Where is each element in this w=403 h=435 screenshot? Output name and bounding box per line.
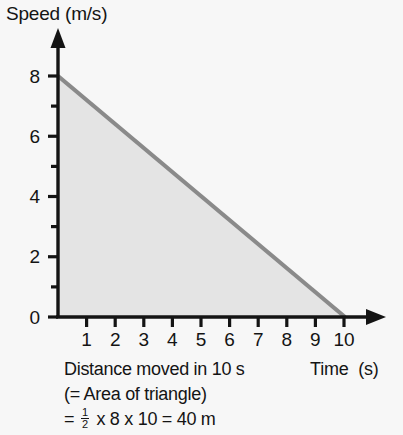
calc-rest: x 8 x 10 = 40 m	[92, 409, 216, 430]
x-axis-title: Time (s)	[310, 360, 379, 378]
annotation-line-distance: Distance moved in 10 s	[64, 357, 245, 382]
x-tick-label-9: 9	[303, 330, 327, 349]
chart-page: Speed (m/s) 8 6 4 2 0 1 2 3 4 5 6 7 8 9 …	[0, 0, 403, 435]
x-tick-label-6: 6	[218, 330, 242, 349]
y-axis-arrow-icon	[51, 28, 66, 48]
y-tick-label-6: 6	[20, 127, 40, 146]
one-half-fraction: 1 2	[81, 407, 89, 430]
y-axis-title: Speed (m/s)	[6, 4, 107, 23]
y-tick-label-4: 4	[20, 187, 40, 206]
x-tick-label-8: 8	[275, 330, 299, 349]
x-tick-label-1: 1	[75, 330, 99, 349]
fraction-denominator: 2	[81, 418, 89, 430]
fraction-numerator: 1	[81, 407, 89, 418]
x-tick-label-7: 7	[246, 330, 270, 349]
y-tick-label-0: 0	[20, 308, 40, 327]
x-tick-label-5: 5	[189, 330, 213, 349]
y-tick-label-8: 8	[20, 67, 40, 86]
x-tick-label-2: 2	[103, 330, 127, 349]
calc-prefix: =	[64, 409, 79, 430]
y-tick-label-2: 2	[20, 247, 40, 266]
x-tick-label-4: 4	[160, 330, 184, 349]
annotation-line-area: (= Area of triangle)	[64, 382, 245, 407]
annotation-block: Distance moved in 10 s (= Area of triang…	[64, 357, 245, 432]
x-tick-label-10: 10	[330, 330, 358, 349]
x-axis-arrow-icon	[366, 309, 386, 325]
annotation-line-calculation: = 1 2 x 8 x 10 = 40 m	[64, 407, 245, 432]
x-tick-label-3: 3	[132, 330, 156, 349]
